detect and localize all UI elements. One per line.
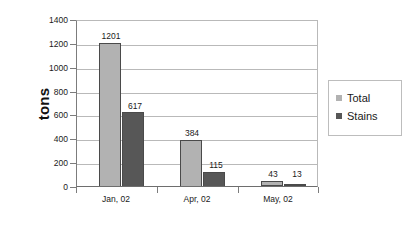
- y-tick-label-600: 600: [38, 111, 68, 120]
- bar-label-apr-02-stains: 115: [201, 161, 231, 170]
- legend-item-stains[interactable]: Stains: [336, 107, 401, 125]
- bar-jan-02-total[interactable]: [99, 43, 121, 186]
- y-tick-label-800: 800: [38, 87, 68, 96]
- bar-label-apr-02-total: 384: [177, 129, 207, 138]
- bar-may-02-stains[interactable]: [284, 184, 306, 187]
- bar-label-jan-02-total: 1201: [96, 32, 126, 41]
- bar-apr-02-total[interactable]: [180, 140, 202, 186]
- x-tick-label-apr-02: Apr, 02: [157, 195, 237, 204]
- y-tick-label-1400: 1400: [38, 16, 68, 25]
- plot-area: 1201 617 384 115 43 13: [76, 20, 318, 187]
- x-axis-tick-marks: [76, 187, 319, 193]
- y-tick-label-1200: 1200: [38, 40, 68, 49]
- legend-label-stains: Stains: [347, 111, 378, 122]
- bar-apr-02-stains[interactable]: [203, 172, 225, 186]
- bar-chart: tons 1400 1200 1000 800 600 400 200 0: [0, 0, 411, 225]
- x-axis-tick-labels: Jan, 02 Apr, 02 May, 02: [76, 195, 319, 209]
- legend-item-total[interactable]: Total: [336, 89, 401, 107]
- y-axis-tick-labels: 1400 1200 1000 800 600 400 200 0: [38, 20, 68, 187]
- bar-group-may-02: 43 13: [261, 21, 306, 186]
- bar-label-may-02-stains: 13: [282, 170, 312, 179]
- legend-label-total: Total: [347, 93, 370, 104]
- chart-legend: Total Stains: [328, 80, 402, 136]
- bar-group-jan-02: 1201 617: [99, 21, 144, 186]
- bars-layer: 1201 617 384 115 43 13: [77, 21, 317, 186]
- legend-swatch-stains-icon: [336, 113, 342, 119]
- x-tick-mark-2: [238, 187, 239, 193]
- x-tick-mark-0: [76, 187, 77, 193]
- y-tick-label-400: 400: [38, 135, 68, 144]
- x-tick-label-may-02: May, 02: [238, 195, 318, 204]
- y-tick-label-1000: 1000: [38, 63, 68, 72]
- bar-group-apr-02: 384 115: [180, 21, 225, 186]
- y-tick-label-0: 0: [38, 183, 68, 192]
- bar-label-jan-02-stains: 617: [120, 102, 150, 111]
- y-tick-label-200: 200: [38, 159, 68, 168]
- bar-jan-02-stains[interactable]: [122, 112, 144, 186]
- legend-swatch-total-icon: [336, 95, 342, 101]
- x-tick-mark-3: [318, 187, 319, 193]
- x-tick-mark-1: [157, 187, 158, 193]
- bar-may-02-total[interactable]: [261, 181, 283, 186]
- x-tick-label-jan-02: Jan, 02: [76, 195, 156, 204]
